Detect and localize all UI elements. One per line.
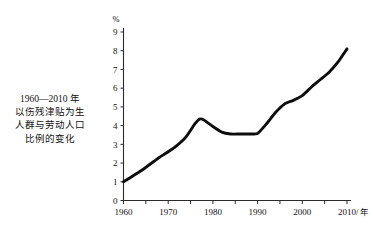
caption-line-4: 比例的变化 [2,133,98,146]
chart-caption: 1960—2010 年 以伤残津贴为生 人群与劳动人口 比例的变化 [2,93,98,146]
x-tick-label-1990: 1990 [249,207,268,217]
y-tick-label-8: 8 [113,46,118,56]
y-tick-label-5: 5 [113,102,118,112]
y-tick-label-6: 6 [113,83,118,93]
caption-line-1: 1960—2010 年 [2,93,98,106]
y-tick-label-3: 3 [113,140,118,150]
y-tick-label-0: 0 [113,196,118,206]
y-tick-label-7: 7 [113,65,118,75]
y-tick-label-2: 2 [113,158,118,168]
data-series-line [124,49,348,182]
y-tick-label-1: 1 [113,177,118,187]
x-axis-tick-labels: 196019701980199020002010 [115,207,357,217]
y-axis-unit-label: % [112,14,119,24]
x-tick-label-1960: 1960 [115,207,134,217]
x-tick-label-2010: 2010 [338,207,357,217]
caption-line-2: 以伤残津贴为生 [2,106,98,119]
x-tick-label-2000: 2000 [293,207,312,217]
x-axis-unit-label: / 年 [356,207,370,217]
y-tick-label-9: 9 [113,27,118,37]
y-tick-label-4: 4 [113,121,118,131]
line-chart-plot: % 0123456789 196019701980199020002010 / … [99,10,373,233]
y-axis-ticks: 0123456789 [113,27,124,206]
caption-line-3: 人群与劳动人口 [2,119,98,132]
chart-figure: 1960—2010 年 以伤残津贴为生 人群与劳动人口 比例的变化 % 0123… [0,0,373,233]
x-tick-label-1980: 1980 [204,207,223,217]
x-tick-label-1970: 1970 [159,207,178,217]
